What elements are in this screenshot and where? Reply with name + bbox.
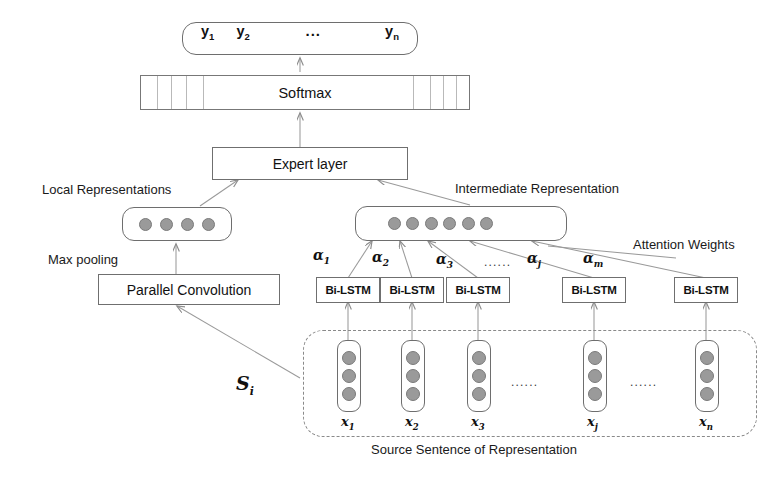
alpha-3-sub: 3 [447, 260, 453, 270]
sentence-symbol-si: Si [236, 372, 254, 398]
word-dot [472, 351, 486, 365]
word-dot [700, 351, 714, 365]
word-dot [406, 369, 420, 383]
attention-weight-alpha-m: αm [583, 250, 603, 269]
max-pooling-label: Max pooling [48, 252, 118, 267]
word-label-xn-base: x [699, 414, 707, 429]
word-vector-xn [695, 340, 719, 412]
word-label-x2-base: x [405, 414, 413, 429]
attention-weight-alpha-3: α3 [436, 251, 453, 270]
word-dot [342, 351, 356, 365]
word-label-x1-sub: 1 [349, 422, 355, 432]
word-label-x1-base: x [341, 414, 349, 429]
attention-weight-alpha-2: α2 [372, 249, 389, 268]
output-token-y2: y2 [236, 23, 249, 42]
attention-weights-label: Attention Weights [633, 237, 735, 252]
alpha-m-base: α [583, 250, 594, 266]
word-label-xn: xn [699, 414, 713, 432]
alpha-j-sub: j [538, 259, 541, 269]
word-label-x1: x1 [341, 414, 355, 432]
attention-weight-ellipsis: ...... [484, 255, 511, 269]
bilstm-cell-n: Bi-LSTM [674, 277, 738, 303]
alpha-3-base: α [436, 251, 447, 267]
parallel-convolution-label: Parallel Convolution [127, 282, 252, 298]
word-dot [406, 351, 420, 365]
word-vector-x2 [401, 340, 425, 412]
bilstm-cell-j-label: Bi-LSTM [571, 284, 616, 296]
word-dot [406, 387, 420, 401]
alpha-1-sub: 1 [324, 256, 330, 266]
output-capsule: y1 y2 ... yn [182, 22, 418, 55]
parallel-convolution-box: Parallel Convolution [98, 274, 280, 305]
bilstm-cell-1: Bi-LSTM [316, 277, 380, 303]
word-dot [342, 369, 356, 383]
word-label-xj: xj [587, 414, 598, 432]
local-representations-label: Local Representations [42, 182, 171, 197]
output-token-y1-sub: 1 [209, 31, 214, 42]
word-label-x2-sub: 2 [413, 422, 419, 432]
expert-layer-box: Expert layer [212, 147, 408, 180]
word-dot [472, 369, 486, 383]
word-label-x3-base: x [471, 414, 479, 429]
bilstm-cell-2: Bi-LSTM [380, 277, 444, 303]
output-token-yn-sub: n [393, 31, 399, 42]
output-token-y1: y1 [201, 23, 214, 42]
bilstm-cell-j: Bi-LSTM [562, 277, 626, 303]
sentence-symbol-base: S [236, 372, 250, 394]
alpha-2-base: α [372, 249, 383, 265]
diagram-canvas: y1 y2 ... yn Softmax Expert layer Local … [0, 0, 784, 477]
intermediate-dot [443, 217, 456, 230]
word-vector-x3 [467, 340, 491, 412]
local-dot [139, 218, 152, 231]
local-dot [181, 218, 194, 231]
bilstm-cell-3: Bi-LSTM [446, 277, 510, 303]
word-dot [588, 351, 602, 365]
output-token-yn: yn [385, 23, 399, 42]
intermediate-dot [406, 217, 419, 230]
local-dot [202, 218, 215, 231]
intermediate-representation-label: Intermediate Representation [455, 181, 619, 196]
alpha-2-sub: 2 [383, 258, 389, 268]
output-ellipsis: ... [305, 26, 321, 36]
word-label-xn-sub: n [707, 422, 713, 432]
alpha-m-sub: m [594, 259, 604, 269]
sentence-ellipsis-right: ...... [630, 375, 657, 389]
intermediate-dot [388, 217, 401, 230]
sentence-ellipsis-mid: ...... [511, 375, 538, 389]
word-label-xj-base: x [587, 414, 595, 429]
alpha-1-base: α [313, 247, 324, 263]
word-label-x3-sub: 3 [479, 422, 485, 432]
output-token-row: y1 y2 ... yn [183, 23, 417, 54]
word-label-x3: x3 [471, 414, 485, 432]
attention-weight-alpha-j: αj [527, 250, 541, 269]
word-dot [472, 387, 486, 401]
alpha-j-base: α [527, 250, 538, 266]
softmax-bar: Softmax [140, 75, 470, 110]
word-dot [588, 387, 602, 401]
bilstm-cell-2-label: Bi-LSTM [389, 284, 434, 296]
bilstm-cell-1-label: Bi-LSTM [325, 284, 370, 296]
bilstm-cell-3-label: Bi-LSTM [455, 284, 500, 296]
local-representation-vector [122, 207, 232, 241]
word-label-x2: x2 [405, 414, 419, 432]
sentence-symbol-sub: i [250, 385, 254, 398]
word-vector-xj [583, 340, 607, 412]
word-dot [700, 369, 714, 383]
word-label-xj-sub: j [595, 422, 598, 432]
word-dot [342, 387, 356, 401]
intermediate-representation-vector [355, 206, 567, 241]
local-dot [160, 218, 173, 231]
output-token-y2-sub: 2 [244, 31, 249, 42]
attention-weight-alpha-1: α1 [313, 247, 330, 266]
intermediate-dot [462, 217, 475, 230]
word-dot [588, 369, 602, 383]
bilstm-cell-n-label: Bi-LSTM [683, 284, 728, 296]
word-vector-x1 [337, 340, 361, 412]
softmax-label: Softmax [141, 76, 469, 109]
figure-caption: Source Sentence of Representation [371, 442, 577, 457]
intermediate-dot [425, 217, 438, 230]
word-dot [700, 387, 714, 401]
intermediate-dot [480, 217, 493, 230]
expert-layer-label: Expert layer [273, 156, 348, 172]
